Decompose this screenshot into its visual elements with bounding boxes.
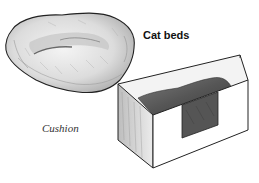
cushion-drawing xyxy=(6,13,135,92)
title-label: Cat beds xyxy=(143,29,189,41)
cat-beds-drawing xyxy=(0,0,259,183)
box-bed-drawing xyxy=(118,55,248,168)
illustration: Cat beds Cushion xyxy=(0,0,259,183)
cushion-label: Cushion xyxy=(42,122,79,134)
